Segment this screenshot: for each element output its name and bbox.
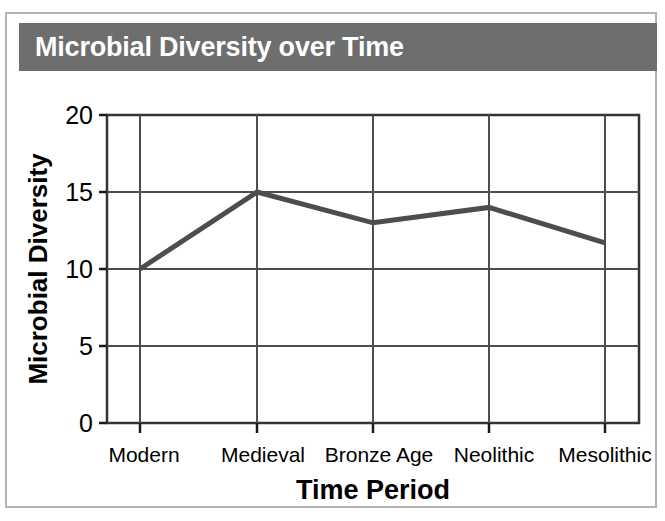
x-axis-title: Time Period — [296, 475, 450, 505]
x-axis-ticks — [140, 423, 605, 433]
y-tick-label-15: 15 — [65, 178, 93, 206]
x-tick-label-mesolithic: Mesolithic — [558, 443, 651, 466]
y-tick-label-5: 5 — [79, 332, 93, 360]
x-tick-label-medieval: Medieval — [221, 443, 305, 466]
line-chart-svg: 20 15 10 5 0 Modern Medieval Bronze Age … — [7, 71, 655, 508]
chart-card: Microbial Diversity over Time — [5, 12, 657, 508]
y-tick-label-0: 0 — [79, 409, 93, 437]
y-tick-labels: 20 15 10 5 0 — [65, 101, 93, 437]
chart-plot-container: 20 15 10 5 0 Modern Medieval Bronze Age … — [7, 71, 655, 508]
y-axis-title: Microbial Diversity — [23, 153, 53, 385]
x-tick-label-neolithic: Neolithic — [454, 443, 535, 466]
chart-title-banner: Microbial Diversity over Time — [19, 23, 657, 71]
page-title: Microbial Diversity over Time — [19, 32, 404, 63]
x-tick-label-modern: Modern — [108, 443, 179, 466]
y-tick-label-10: 10 — [65, 255, 93, 283]
x-tick-label-bronze-age: Bronze Age — [325, 443, 434, 466]
y-tick-label-20: 20 — [65, 101, 93, 129]
x-tick-labels: Modern Medieval Bronze Age Neolithic Mes… — [108, 443, 651, 466]
